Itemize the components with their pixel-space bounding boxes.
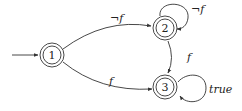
edge-label-1-to-2: ¬f: [110, 12, 125, 25]
state-3: 3: [153, 75, 177, 99]
edge-label-2-self: ¬f: [191, 3, 206, 16]
edge-label-2-to-3: f: [186, 51, 193, 64]
state-1-label: 1: [49, 49, 56, 62]
edge-2-to-3: [168, 41, 172, 73]
edge-label-3-self: true: [209, 83, 233, 96]
state-1: 1: [40, 43, 64, 67]
edge-1-to-3: [63, 62, 152, 89]
state-2-label: 2: [162, 22, 169, 35]
state-2: 2: [153, 16, 177, 40]
edge-3-self-loop: [178, 75, 206, 102]
edge-1-to-2: [63, 24, 151, 49]
state-3-label: 3: [162, 81, 169, 94]
state-diagram: ¬f ¬f f f true 1 2 3: [0, 0, 242, 111]
